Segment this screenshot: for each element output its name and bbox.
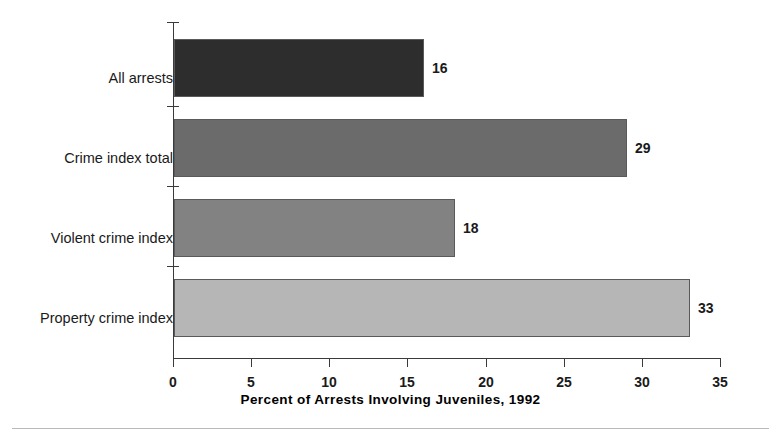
value-axis-tick-0 — [173, 351, 174, 367]
category-axis-tick-top — [167, 22, 179, 23]
bar-chart: All arrests Crime index total Violent cr… — [0, 0, 781, 437]
value-axis-label-0: 0 — [153, 374, 193, 390]
bar-crime-index-total — [174, 119, 627, 177]
bar-value-all-arrests: 16 — [432, 60, 448, 76]
value-axis-tick-30 — [642, 358, 643, 367]
value-axis-label-35: 35 — [700, 374, 740, 390]
bar-property-crime-index — [174, 279, 690, 337]
value-axis-tick-15 — [407, 358, 408, 367]
footer-divider — [12, 428, 769, 429]
value-axis-label-20: 20 — [466, 374, 506, 390]
value-axis-tick-10 — [329, 358, 330, 367]
category-axis-tick-1 — [167, 106, 179, 107]
value-axis-label-25: 25 — [544, 374, 584, 390]
category-axis-tick-2 — [167, 186, 179, 187]
value-axis-tick-5 — [251, 358, 252, 367]
category-label-violent-crime-index: Violent crime index — [51, 230, 173, 246]
value-axis-line — [173, 358, 721, 359]
value-axis-label-5: 5 — [231, 374, 271, 390]
category-label-crime-index-total: Crime index total — [64, 150, 173, 166]
bar-violent-crime-index — [174, 199, 455, 257]
plot-area: 16 29 18 33 0 5 10 15 20 25 30 35 — [173, 22, 720, 358]
category-axis-tick-3 — [167, 266, 179, 267]
value-axis-label-15: 15 — [387, 374, 427, 390]
bar-value-property-crime-index: 33 — [698, 300, 714, 316]
value-axis-label-10: 10 — [309, 374, 349, 390]
x-axis-title: Percent of Arrests Involving Juveniles, … — [0, 392, 781, 407]
value-axis-label-30: 30 — [622, 374, 662, 390]
bar-value-violent-crime-index: 18 — [463, 220, 479, 236]
category-label-property-crime-index: Property crime index — [40, 310, 173, 326]
value-axis-tick-20 — [486, 358, 487, 367]
bar-all-arrests — [174, 39, 424, 97]
value-axis-tick-25 — [564, 358, 565, 367]
value-axis-tick-35 — [720, 358, 721, 367]
category-label-all-arrests: All arrests — [109, 70, 173, 86]
bar-value-crime-index-total: 29 — [635, 140, 651, 156]
